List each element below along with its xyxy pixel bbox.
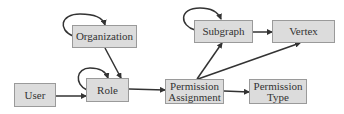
edge-organization-to-role bbox=[105, 48, 121, 78]
node-role: Role bbox=[86, 78, 129, 102]
edge-permission-assignment-to-permission-type bbox=[224, 91, 249, 92]
node-vertex: Vertex bbox=[272, 20, 335, 43]
node-vertex-label: Vertex bbox=[289, 26, 318, 37]
node-permission-type-line2: Type bbox=[267, 92, 289, 103]
node-permission-assignment: Permission Assignment bbox=[165, 79, 224, 104]
node-permission-assignment-line1: Permission bbox=[170, 81, 219, 92]
node-role-label: Role bbox=[97, 85, 118, 96]
node-user: User bbox=[14, 83, 56, 107]
node-subgraph-label: Subgraph bbox=[202, 26, 244, 37]
node-permission-type: Permission Type bbox=[249, 79, 307, 104]
node-organization-label: Organization bbox=[76, 31, 133, 42]
edge-permission-assignment-to-vertex bbox=[198, 43, 300, 79]
rbac-diagram: User Organization Role Permission Assign… bbox=[0, 0, 344, 114]
node-user-label: User bbox=[25, 90, 46, 101]
node-permission-type-line1: Permission bbox=[254, 81, 303, 92]
node-subgraph: Subgraph bbox=[194, 20, 253, 43]
edge-role-to-permission-assignment bbox=[129, 89, 165, 90]
edge-permission-assignment-to-subgraph bbox=[197, 43, 222, 79]
node-organization: Organization bbox=[72, 25, 137, 48]
node-permission-assignment-line2: Assignment bbox=[168, 92, 221, 103]
